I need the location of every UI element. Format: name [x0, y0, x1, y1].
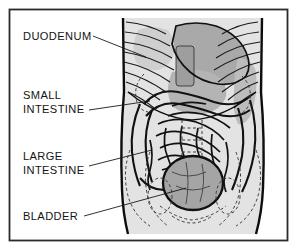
label-large-intestine-line2: INTESTINE [23, 164, 85, 176]
label-bladder: BLADDER [23, 210, 78, 222]
label-small-intestine-line2: INTESTINE [23, 103, 85, 115]
label-small-intestine-line1: SMALL [23, 89, 61, 101]
anatomy-illustration: DUODENUM SMALL INTESTINE LARGE INTESTINE… [0, 0, 296, 251]
esophagus-vertebra-shade [176, 46, 194, 86]
label-duodenum: DUODENUM [23, 30, 92, 42]
label-large-intestine-line1: LARGE [23, 150, 63, 162]
bladder-organ [163, 156, 223, 210]
torso-group [121, 18, 263, 234]
anatomy-figure: DUODENUM SMALL INTESTINE LARGE INTESTINE… [0, 0, 296, 251]
